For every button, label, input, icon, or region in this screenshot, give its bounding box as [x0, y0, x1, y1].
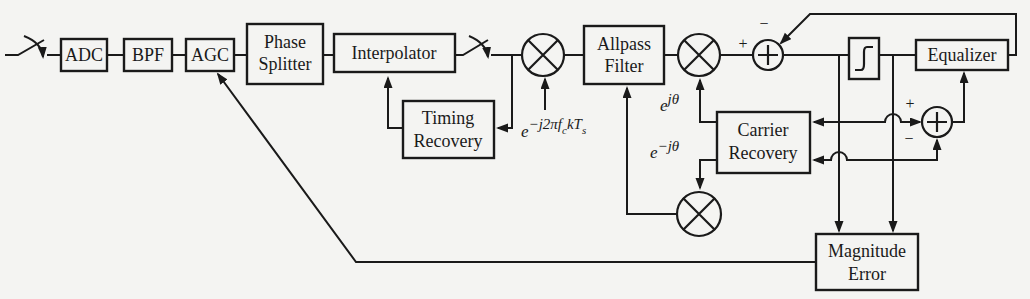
summer2-symbol: [922, 107, 952, 137]
summer1-symbol: [753, 40, 783, 70]
allpass-filter-label-line2: Filter: [605, 56, 644, 76]
block-magnitude-error: Magnitude Error: [816, 234, 918, 290]
adc-label: ADC: [65, 45, 103, 65]
summer1-plus-sign: +: [738, 35, 747, 52]
block-slicer: [849, 38, 879, 79]
carrier-recovery-label-line2: Recovery: [729, 143, 798, 163]
interpolator-label: Interpolator: [352, 43, 437, 63]
phase-splitter-label-line2: Splitter: [259, 54, 312, 74]
carrier-recovery-label-line1: Carrier: [738, 120, 789, 140]
magnitude-error-label-line2: Error: [848, 264, 886, 284]
block-equalizer: Equalizer: [916, 40, 1008, 70]
wire-decision-to-carrier-recovery: [814, 152, 893, 160]
equalizer-label: Equalizer: [928, 45, 997, 65]
wire-timing-recovery-to-interpolator: [388, 78, 403, 128]
magnitude-error-label-line1: Magnitude: [828, 241, 906, 261]
wire-carrier-recovery-to-mixer3: [700, 160, 717, 188]
wire-summer2-to-equalizer: [952, 73, 964, 122]
rotator-positive-label: ejθ: [660, 91, 680, 115]
block-interpolator: Interpolator: [334, 34, 455, 72]
block-phase-splitter: Phase Splitter: [247, 24, 323, 84]
rotator-negative-label: e−jθ: [650, 138, 680, 162]
block-bpf: BPF: [124, 39, 172, 71]
agc-label: AGC: [191, 45, 229, 65]
phase-splitter-label-line1: Phase: [264, 32, 306, 52]
wire-decision-to-summer2-minus: [893, 140, 937, 160]
block-adc: ADC: [61, 39, 107, 71]
mixer2-symbol: [678, 34, 720, 76]
block-timing-recovery: Timing Recovery: [403, 101, 494, 158]
summer1-minus-sign: −: [759, 15, 768, 32]
block-carrier-recovery: Carrier Recovery: [717, 112, 810, 173]
block-diagram-canvas: ADC BPF AGC Phase Splitter Interpolator …: [0, 0, 1030, 299]
wire-soft-to-summer2-plus: [839, 114, 920, 122]
block-allpass-filter: Allpass Filter: [584, 26, 664, 84]
input-switch-blade: [5, 40, 44, 55]
timing-recovery-label-line1: Timing: [422, 108, 474, 128]
summer2-minus-sign: −: [904, 130, 913, 147]
wire-to-timing-recovery: [498, 55, 512, 128]
timing-recovery-label-line2: Recovery: [414, 131, 483, 151]
bpf-label: BPF: [132, 45, 164, 65]
mixer3-symbol: [677, 192, 721, 236]
block-agc: AGC: [186, 39, 234, 71]
wire-carrier-recovery-to-mixer2: [700, 80, 717, 122]
mixer-exponential-label: e−j2πfckTs: [521, 116, 586, 141]
receiver-block-diagram: ADC BPF AGC Phase Splitter Interpolator …: [0, 0, 1030, 299]
summer2-plus-sign: +: [905, 95, 914, 112]
mixer1-symbol: [522, 34, 564, 76]
allpass-filter-label-line1: Allpass: [597, 34, 651, 54]
